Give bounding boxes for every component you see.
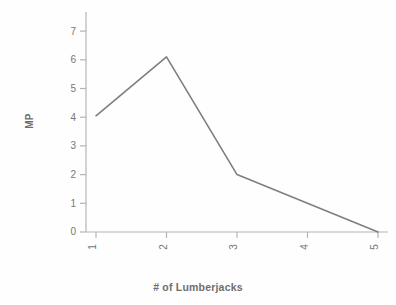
data-series-line — [96, 57, 378, 232]
y-tick-label-3: 3 — [56, 141, 76, 151]
line-chart-plot — [0, 0, 396, 305]
y-axis-title: MP — [4, 106, 54, 136]
chart-screenshot: MP 7 6 5 4 3 2 1 0 1 2 3 4 5 # of Lumber… — [0, 0, 396, 305]
x-tick-label-5: 5 — [369, 238, 387, 256]
y-tick-label-7: 7 — [56, 27, 76, 37]
y-tick-label-1: 1 — [56, 199, 76, 209]
y-tick-label-0: 0 — [56, 227, 76, 237]
y-tick-label-4: 4 — [56, 113, 76, 123]
y-tick-label-5: 5 — [56, 84, 76, 94]
x-tick-label-1: 1 — [87, 238, 105, 256]
x-axis-title: # of Lumberjacks — [0, 281, 396, 293]
y-tick-label-6: 6 — [56, 55, 76, 65]
x-tick-label-2: 2 — [158, 238, 176, 256]
y-tick-label-2: 2 — [56, 170, 76, 180]
x-tick-label-3: 3 — [228, 238, 246, 256]
y-axis-ticks — [80, 31, 86, 232]
x-tick-label-4: 4 — [299, 238, 317, 256]
